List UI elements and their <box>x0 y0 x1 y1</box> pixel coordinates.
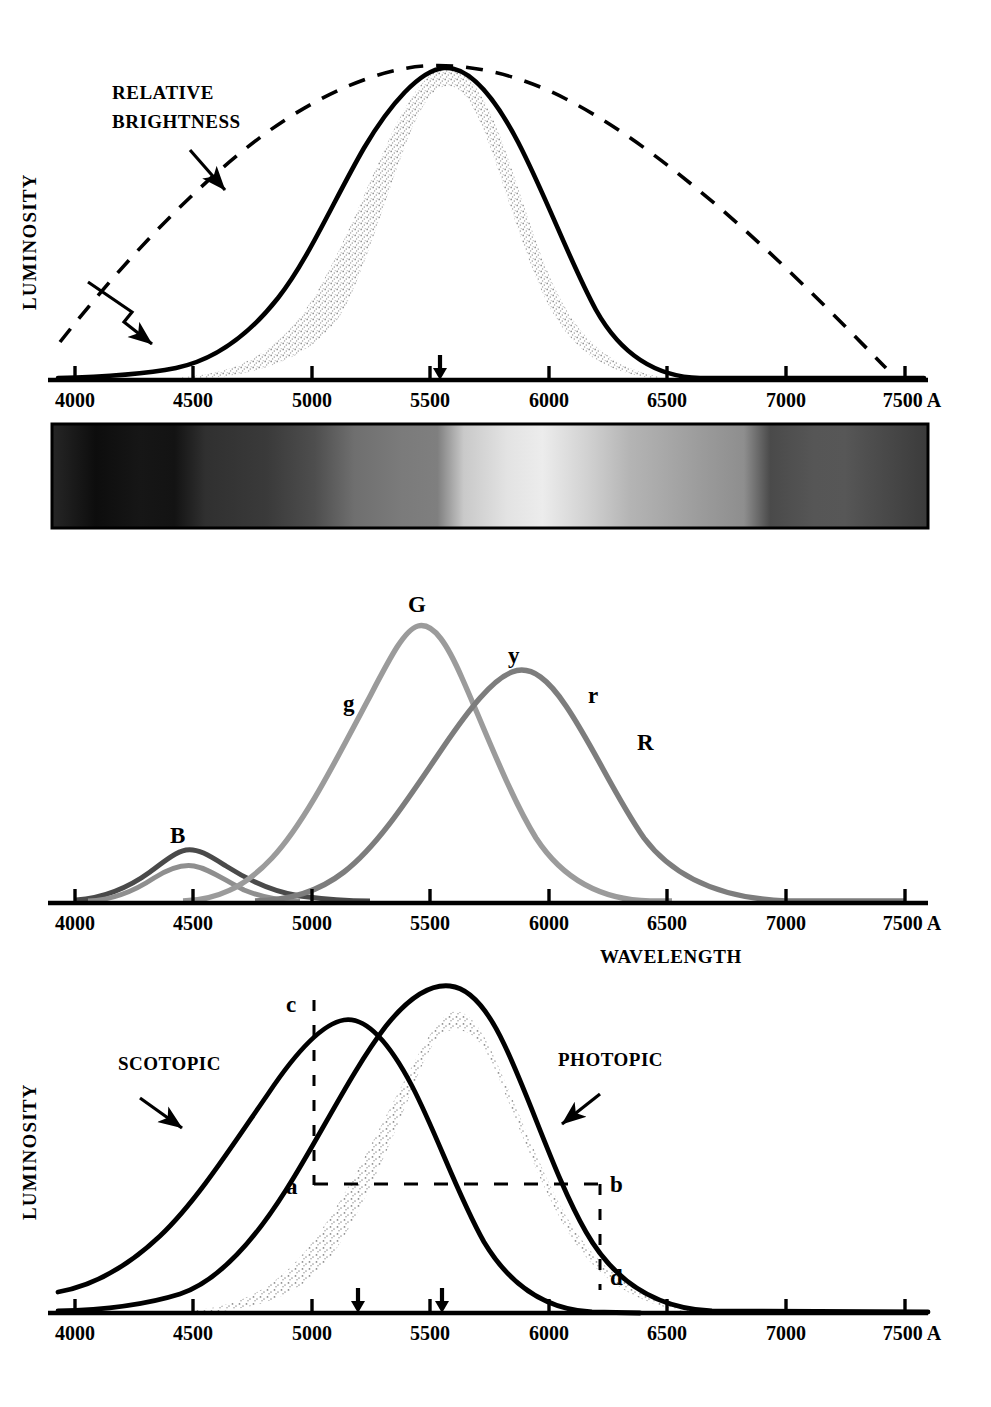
point-label-b: b <box>610 1172 623 1197</box>
x-tick-label-6000-top: 6000 <box>529 389 569 411</box>
x-tick-label-7500-top: 7500 A <box>883 389 942 411</box>
x-tick-label-6500-top: 6500 <box>647 389 687 411</box>
x-tick-label-7000-top: 7000 <box>766 389 806 411</box>
annotation-relative-brightness-line1: RELATIVE <box>112 82 214 103</box>
x-tick-label-7000-middle: 7000 <box>766 912 806 934</box>
curve-label-B: B <box>170 823 185 848</box>
x-tick-label-4000-middle: 4000 <box>55 912 95 934</box>
y-axis-label-luminosity: LUMINOSITY <box>19 173 40 310</box>
spectrum-gradient-band <box>52 424 928 528</box>
point-label-a: a <box>286 1174 298 1199</box>
point-label-d: d <box>610 1265 623 1290</box>
x-tick-label-5000-top: 5000 <box>292 389 332 411</box>
x-tick-label-6000-bottom: 6000 <box>529 1322 569 1344</box>
x-tick-label-4500-bottom: 4500 <box>173 1322 213 1344</box>
x-tick-label-5500-middle: 5500 <box>410 912 450 934</box>
figure-root: LUMINOSITY 4000 4500 5000 5500 <box>0 0 991 1407</box>
curve-label-G: G <box>408 592 426 617</box>
annotation-scotopic: SCOTOPIC <box>118 1053 221 1074</box>
x-axis-label-wavelength-middle: WAVELENGTH <box>600 946 742 967</box>
x-tick-label-5000-middle: 5000 <box>292 912 332 934</box>
x-tick-label-7000-bottom: 7000 <box>766 1322 806 1344</box>
x-tick-label-4000-top: 4000 <box>55 389 95 411</box>
curve-label-g: g <box>343 691 355 716</box>
x-tick-label-7500-bottom: 7500 A <box>883 1322 942 1344</box>
x-tick-label-6500-bottom: 6500 <box>647 1322 687 1344</box>
x-tick-label-5500-bottom: 5500 <box>410 1322 450 1344</box>
x-tick-label-6500-middle: 6500 <box>647 912 687 934</box>
x-tick-label-7500-middle: 7500 A <box>883 912 942 934</box>
x-tick-label-4500-middle: 4500 <box>173 912 213 934</box>
y-axis-label-luminosity-bottom: LUMINOSITY <box>19 1083 40 1220</box>
x-tick-label-4500-top: 4500 <box>173 389 213 411</box>
curve-label-R: R <box>637 730 654 755</box>
page-background <box>0 0 991 1407</box>
x-tick-label-6000-middle: 6000 <box>529 912 569 934</box>
x-tick-label-5500-top: 5500 <box>410 389 450 411</box>
point-label-c: c <box>286 992 296 1017</box>
x-tick-label-5000-bottom: 5000 <box>292 1322 332 1344</box>
annotation-relative-brightness-line2: BRIGHTNESS <box>112 111 241 132</box>
panel-spectrum-strip <box>52 424 928 528</box>
curve-label-y: y <box>508 643 520 668</box>
annotation-photopic: PHOTOPIC <box>558 1049 663 1070</box>
x-tick-label-4000-bottom: 4000 <box>55 1322 95 1344</box>
figure-svg: LUMINOSITY 4000 4500 5000 5500 <box>0 0 991 1407</box>
curve-label-r: r <box>588 683 598 708</box>
